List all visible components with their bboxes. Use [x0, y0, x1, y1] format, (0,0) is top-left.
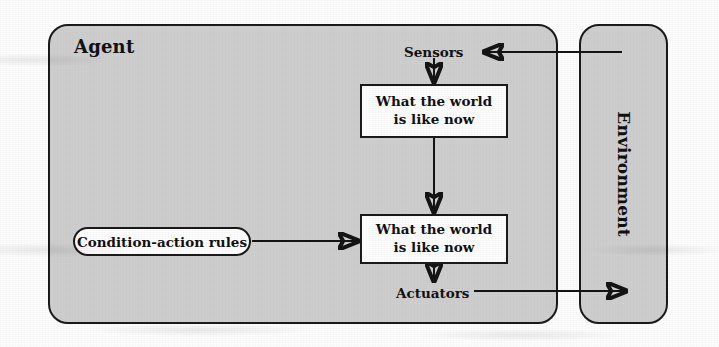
- sensors-label: Sensors: [404, 44, 463, 60]
- agent-container: [48, 24, 558, 324]
- actuators-label: Actuators: [396, 285, 469, 301]
- pill-condition-action-rules: Condition-action rules: [73, 227, 251, 256]
- agent-environment-diagram: Agent Environment Sensors Actuators What…: [0, 0, 719, 347]
- box-what-the-world-is-like-now-2: What the world is like now: [360, 214, 508, 264]
- environment-label-text: Environment: [614, 111, 634, 237]
- box-what-the-world-is-like-now-1: What the world is like now: [360, 84, 508, 138]
- agent-label: Agent: [74, 36, 134, 57]
- environment-label: Environment: [579, 24, 668, 324]
